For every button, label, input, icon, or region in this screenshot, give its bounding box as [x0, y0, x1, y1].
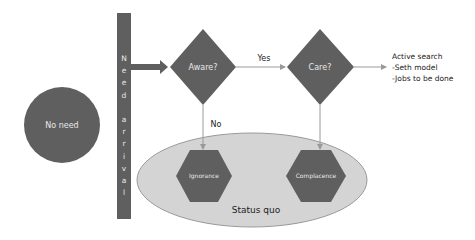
need-arrival-letter: a [122, 176, 127, 185]
care-label: Care? [309, 63, 332, 72]
need-arrival-letter: N [121, 54, 127, 63]
outcome-line-1: Active search [392, 52, 443, 61]
need-arrival-arrow [131, 60, 168, 74]
complacence-label: Complacence [296, 172, 337, 180]
yes-label: Yes [257, 54, 271, 63]
need-arrival-letter: a [122, 115, 127, 124]
need-arrival-letter: l [123, 188, 125, 197]
outcome-line-3: -Jobs to be done [392, 74, 454, 83]
no-label: No [211, 120, 222, 129]
need-arrival-letter: d [122, 91, 127, 100]
outcome-line-2: -Seth model [392, 63, 438, 72]
need-arrival-letter: e [122, 78, 127, 87]
need-arrival-letter: v [122, 164, 127, 173]
ignorance-label: Ignorance [189, 172, 219, 180]
need-arrival-letter: i [123, 152, 125, 161]
status-quo-label: Status quo [232, 205, 281, 215]
no-need-label: No need [45, 121, 78, 130]
need-arrival-letter: e [122, 66, 127, 75]
flow-diagram: Status quo No need Needarrival Aware? Ye… [0, 0, 475, 240]
aware-label: Aware? [189, 63, 218, 72]
outcome-text: Active search -Seth model -Jobs to be do… [392, 52, 454, 83]
